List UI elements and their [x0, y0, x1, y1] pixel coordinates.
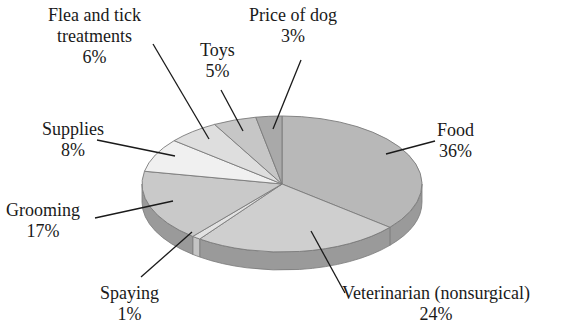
- label-spay-pct: 1%: [100, 304, 159, 325]
- label-supplies-name: Supplies: [42, 119, 104, 140]
- label-food-name: Food: [437, 120, 474, 141]
- label-vet-pct: 24%: [342, 304, 530, 325]
- label-food: Food 36%: [437, 120, 474, 162]
- label-flea-pct: 6%: [48, 47, 141, 68]
- label-vet-name: Veterinarian (nonsurgical): [342, 283, 530, 304]
- label-price-name: Price of dog: [249, 5, 337, 26]
- label-toys-name: Toys: [200, 40, 235, 61]
- label-food-pct: 36%: [437, 141, 474, 162]
- label-supplies: Supplies 8%: [42, 119, 104, 161]
- side-spaying: [193, 236, 200, 257]
- label-veterinarian: Veterinarian (nonsurgical) 24%: [342, 283, 530, 325]
- label-grooming: Grooming 17%: [6, 200, 80, 242]
- label-price-of-dog: Price of dog 3%: [249, 5, 337, 47]
- label-flea-name-2: treatments: [48, 26, 141, 47]
- label-toys: Toys 5%: [200, 40, 235, 82]
- label-spaying: Spaying 1%: [100, 283, 159, 325]
- label-flea-name-1: Flea and tick: [48, 5, 141, 26]
- label-toys-pct: 5%: [200, 61, 235, 82]
- label-spay-name: Spaying: [100, 283, 159, 304]
- pie-top-slices: [142, 116, 422, 252]
- label-supplies-pct: 8%: [42, 140, 104, 161]
- label-flea-and-tick: Flea and tick treatments 6%: [48, 5, 141, 68]
- label-groom-name: Grooming: [6, 200, 80, 221]
- label-price-pct: 3%: [249, 26, 337, 47]
- label-groom-pct: 17%: [6, 221, 80, 242]
